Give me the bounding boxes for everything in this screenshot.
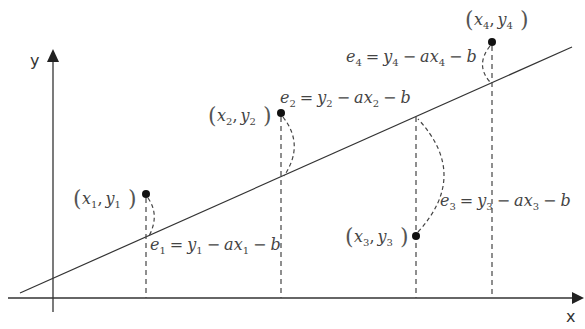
- x-axis-label: x: [566, 307, 575, 326]
- paren-open: (: [208, 103, 217, 128]
- drop-lines: [146, 46, 492, 298]
- point-label-3-text: x3,y3: [354, 227, 393, 248]
- residual-arcs: [148, 46, 490, 236]
- point-label-3: ( x3,y3 ): [345, 224, 409, 249]
- x-axis-arrow-icon: [572, 292, 584, 304]
- y-axis-arrow-icon: [47, 49, 59, 62]
- data-point-2: [277, 109, 285, 117]
- axes: x y: [8, 49, 584, 326]
- point-label-1-text: x1,y1: [82, 189, 121, 210]
- y-axis-label: y: [30, 51, 39, 70]
- point-label-2: ( x2,y2 ): [208, 103, 272, 128]
- paren-close: ): [263, 103, 272, 128]
- residual-equation-1: e1=y1−ax1−b: [150, 235, 281, 256]
- residual-equation-4: e4=y4−ax4−b: [346, 47, 477, 68]
- residual-arc-2: [283, 117, 294, 176]
- paren-close: ): [128, 186, 137, 211]
- data-point-3: [412, 232, 420, 240]
- point-label-1: ( x1,y1 ): [73, 186, 137, 211]
- residual-arc-4: [483, 46, 491, 82]
- paren-close: ): [520, 7, 529, 32]
- data-point-4: [488, 38, 496, 46]
- paren-open: (: [73, 186, 82, 211]
- regression-diagram: x y ( x1,y1 ) ( x2,y2 ) ( x3,y3 ): [0, 0, 585, 329]
- data-point-1: [142, 190, 150, 198]
- point-label-4-text: x4,y4: [474, 10, 513, 31]
- residual-equation-3: e3=y3−ax3−b: [440, 191, 571, 212]
- regression-line: [20, 47, 572, 293]
- residual-arc-1: [148, 198, 154, 236]
- paren-open: (: [465, 7, 474, 32]
- point-label-4: ( x4,y4 ): [465, 7, 529, 32]
- point-label-2-text: x2,y2: [217, 106, 256, 127]
- paren-close: ): [400, 224, 409, 249]
- residual-equation-2: e2=y2−ax2−b: [280, 88, 411, 109]
- paren-open: (: [345, 224, 354, 249]
- residual-arc-3: [418, 119, 444, 232]
